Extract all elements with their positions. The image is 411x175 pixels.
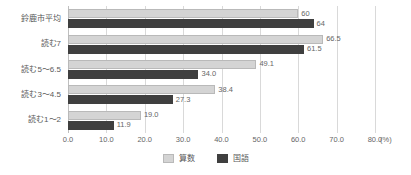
x-axis-tick-label: 20.0 [137, 136, 152, 144]
bar-value-label: 38.4 [215, 86, 233, 94]
legend-item[interactable]: 算数 [163, 154, 195, 163]
bar-row: 19.0 [68, 111, 375, 120]
category-axis: 鈴鹿市平均読む7読む5～6.5読む3～4.5読む1～2 [0, 6, 65, 133]
bar-row: 60 [68, 9, 375, 18]
bar-group: 19.011.9 [68, 108, 375, 133]
bar-value-label: 27.3 [173, 96, 191, 104]
bar-row: 34.0 [68, 70, 375, 79]
bar-row: 11.9 [68, 121, 375, 130]
bar-group: 49.134.0 [68, 57, 375, 82]
legend-swatch-icon [217, 154, 228, 163]
category-label: 読む7 [41, 40, 61, 48]
bar-row: 64 [68, 19, 375, 28]
x-axis-tick-label: 40.0 [214, 136, 229, 144]
bar-group: 6064 [68, 6, 375, 31]
bar-row: 49.1 [68, 60, 375, 69]
bar-kokugo [68, 70, 198, 79]
bar-kokugo [68, 95, 173, 104]
bar-value-label: 11.9 [114, 122, 131, 130]
bar-kokugo [68, 19, 314, 28]
bar-row: 27.3 [68, 95, 375, 104]
x-axis-tick-label: 70.0 [329, 136, 344, 144]
bar-sansu [68, 60, 256, 69]
bar-kokugo [68, 121, 114, 130]
bar-chart: 鈴鹿市平均読む7読む5～6.5読む3～4.5読む1～2 606466.561.5… [0, 0, 411, 175]
x-axis: 0.010.020.030.040.050.060.070.080.0 [68, 133, 375, 147]
gridline [375, 6, 376, 133]
bar-kokugo [68, 45, 304, 54]
bar-sansu [68, 111, 141, 120]
bar-value-label: 19.0 [141, 112, 159, 120]
x-axis-tick-label: 0.0 [63, 136, 73, 144]
x-axis-tick-label: 50.0 [253, 136, 268, 144]
x-axis-tick-label: 60.0 [291, 136, 306, 144]
legend-swatch-icon [163, 154, 174, 163]
bar-value-label: 49.1 [256, 61, 274, 69]
bar-sansu [68, 9, 298, 18]
legend-label: 国語 [233, 155, 249, 163]
bar-sansu [68, 85, 215, 94]
category-label: 読む1～2 [28, 116, 61, 124]
bar-row: 38.4 [68, 85, 375, 94]
category-label: 読む5～6.5 [21, 66, 61, 74]
bar-group: 38.427.3 [68, 82, 375, 107]
x-axis-tick-label: 30.0 [176, 136, 191, 144]
bar-value-label: 61.5 [304, 45, 322, 53]
bar-value-label: 34.0 [198, 71, 216, 79]
bar-value-label: 64 [314, 20, 325, 28]
bar-value-label: 60 [298, 10, 309, 18]
bar-row: 61.5 [68, 45, 375, 54]
bar-row: 66.5 [68, 35, 375, 44]
x-axis-tick-label: 10.0 [99, 136, 114, 144]
x-axis-unit-label: (%) [380, 136, 392, 144]
category-label: 鈴鹿市平均 [21, 15, 61, 23]
legend-label: 算数 [179, 155, 195, 163]
bar-group: 66.561.5 [68, 31, 375, 56]
plot-area: 606466.561.549.134.038.427.319.011.9 [68, 6, 375, 133]
chart-legend: 算数国語 [0, 154, 411, 163]
legend-item[interactable]: 国語 [217, 154, 249, 163]
category-label: 読む3～4.5 [21, 91, 61, 99]
bar-sansu [68, 35, 323, 44]
bar-value-label: 66.5 [323, 35, 341, 43]
